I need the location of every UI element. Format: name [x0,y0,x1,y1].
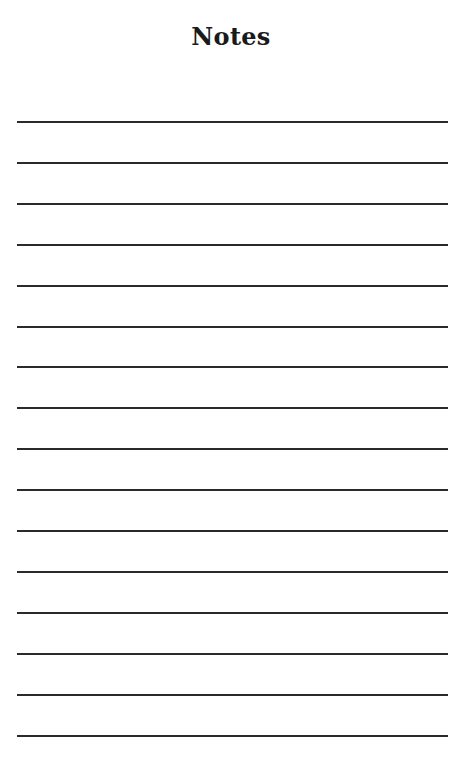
ruled-line [17,203,448,205]
ruled-line [17,326,448,328]
ruled-line [17,694,448,696]
ruled-line [17,448,448,450]
ruled-line [17,244,448,246]
ruled-line [17,162,448,164]
ruled-line [17,366,448,368]
ruled-line [17,489,448,491]
ruled-line [17,121,448,123]
ruled-line [17,571,448,573]
ruled-line [17,653,448,655]
ruled-line [17,735,448,737]
ruled-lines [17,0,448,771]
ruled-line [17,407,448,409]
ruled-line [17,530,448,532]
ruled-line [17,612,448,614]
ruled-line [17,285,448,287]
